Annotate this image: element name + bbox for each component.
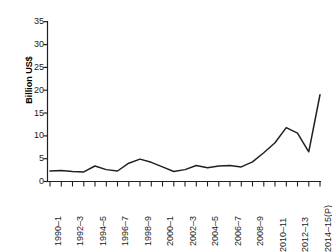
- x-tick-label-2008-9: 2008–9: [256, 216, 265, 246]
- y-tick-label-5: 5: [26, 154, 44, 163]
- y-tick-label-25: 25: [26, 63, 44, 72]
- data-series-line: [50, 95, 320, 172]
- x-tick-label-2002-3: 2002–3: [189, 216, 198, 246]
- x-tick-label-2010-11: 2010–11: [279, 218, 288, 252]
- x-tick-label-2006-7: 2006–7: [234, 216, 243, 246]
- x-tick-label-2014-15p: 2014–15(P): [324, 205, 332, 252]
- plot-area: [0, 0, 332, 252]
- x-tick-label-1990-1: 1990–1: [54, 216, 63, 246]
- y-tick-label-30: 30: [26, 40, 44, 49]
- x-tick-marks: [50, 182, 320, 187]
- y-tick-label-10: 10: [26, 131, 44, 140]
- y-tick-label-20: 20: [26, 86, 44, 95]
- x-tick-label-2004-5: 2004–5: [211, 216, 220, 246]
- x-tick-label-1998-9: 1998–9: [144, 216, 153, 246]
- y-tick-labels: 0 5 10 15 20 25 30 35: [24, 0, 44, 252]
- y-tick-label-0: 0: [26, 177, 44, 186]
- x-tick-label-1994-5: 1994–5: [99, 216, 108, 246]
- line-chart: Billion US$: [0, 0, 332, 252]
- x-tick-label-1996-7: 1996–7: [121, 216, 130, 246]
- x-tick-label-2000-1: 2000–1: [166, 216, 175, 246]
- y-tick-label-35: 35: [26, 17, 44, 26]
- x-tick-label-1992-3: 1992–3: [76, 216, 85, 246]
- y-tick-label-15: 15: [26, 109, 44, 118]
- x-tick-label-2012-13: 2012–13: [301, 217, 310, 252]
